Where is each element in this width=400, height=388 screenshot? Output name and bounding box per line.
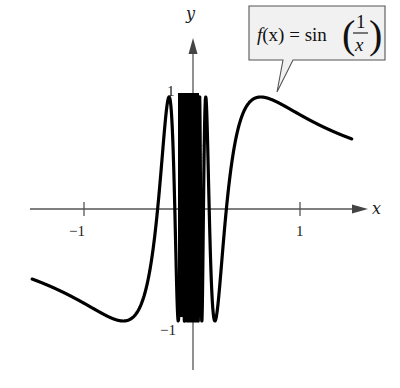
x-axis-label: x — [372, 199, 381, 218]
callout-left-paren: ( — [342, 12, 355, 57]
y-axis-arrow-icon — [189, 38, 198, 54]
callout-formula: f(x) = sin — [257, 24, 327, 46]
y-axis-label: y — [185, 4, 196, 23]
callout-denominator: x — [354, 34, 364, 55]
y-tick-label-pos1: 1 — [167, 83, 175, 99]
function-callout: f(x) = sin ( ) 1 x — [249, 6, 385, 92]
callout-right-paren: ) — [369, 12, 382, 57]
x-axis-arrow-icon — [352, 205, 368, 214]
function-graph: x y −1 1 1 −1 f(x) = sin ( ) 1 x — [0, 0, 400, 388]
callout-numerator: 1 — [356, 11, 366, 32]
x-tick-label-pos1: 1 — [296, 223, 304, 239]
x-tick-label-neg1: −1 — [69, 223, 85, 239]
oscillation-band — [178, 93, 199, 317]
y-tick-label-neg1: −1 — [160, 322, 176, 338]
callout-rest: (x) = sin — [262, 24, 327, 46]
